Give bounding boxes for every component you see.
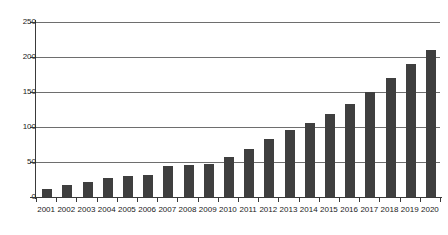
y-axis-labels: 050100150200250 [0, 0, 36, 235]
bar-2009 [204, 164, 214, 197]
x-axis-ticks [36, 197, 440, 205]
bar-2004 [103, 178, 113, 197]
bar-2014 [305, 123, 315, 197]
x-tick-mark-2 [76, 197, 77, 202]
bar-2016 [345, 104, 355, 197]
bar-2001 [42, 189, 52, 197]
x-tick-mark-18 [400, 197, 401, 202]
bar-2011 [244, 149, 254, 197]
x-tick-mark-12 [278, 197, 279, 202]
bars [36, 0, 440, 197]
x-tick-mark-19 [420, 197, 421, 202]
y-tick-mark-100 [30, 127, 35, 128]
bar-2019 [406, 64, 416, 197]
x-tick-mark-10 [238, 197, 239, 202]
bar-2012 [264, 139, 274, 197]
bar-2005 [123, 176, 133, 197]
x-tick-mark-4 [117, 197, 118, 202]
x-tick-mark-13 [299, 197, 300, 202]
x-tick-label-2020: 2020 [418, 205, 442, 214]
x-tick-mark-6 [157, 197, 158, 202]
y-tick-mark-200 [30, 57, 35, 58]
bar-2018 [386, 78, 396, 197]
x-tick-mark-17 [379, 197, 380, 202]
bar-2015 [325, 114, 335, 197]
x-tick-mark-0 [36, 197, 37, 202]
x-tick-mark-14 [319, 197, 320, 202]
bar-2008 [184, 165, 194, 197]
bar-2020 [426, 50, 436, 197]
x-tick-mark-11 [258, 197, 259, 202]
x-tick-mark-15 [339, 197, 340, 202]
x-tick-mark-5 [137, 197, 138, 202]
x-tick-mark-9 [218, 197, 219, 202]
bar-2002 [62, 185, 72, 197]
x-tick-mark-3 [97, 197, 98, 202]
x-axis-labels: 2001200220032004200520062007200820092010… [36, 205, 440, 221]
x-tick-mark-1 [56, 197, 57, 202]
bar-2003 [83, 182, 93, 197]
bar-2013 [285, 130, 295, 197]
y-tick-mark-150 [30, 92, 35, 93]
bar-2006 [143, 175, 153, 197]
bar-chart: 050100150200250 200120022003200420052006… [0, 0, 448, 235]
x-tick-mark-20 [440, 197, 441, 202]
bar-2010 [224, 157, 234, 197]
x-tick-mark-7 [177, 197, 178, 202]
bar-2007 [163, 166, 173, 197]
y-tick-mark-50 [30, 162, 35, 163]
y-tick-mark-250 [30, 22, 35, 23]
bar-2017 [365, 92, 375, 197]
x-tick-mark-16 [359, 197, 360, 202]
x-tick-mark-8 [198, 197, 199, 202]
